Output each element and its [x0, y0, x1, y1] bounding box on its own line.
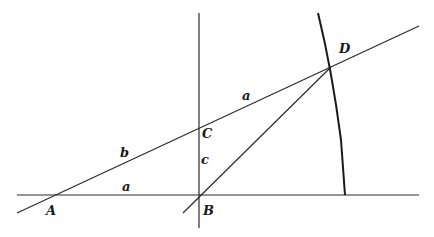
segment-label-ab: a [122, 179, 130, 194]
segment-label-ac: b [120, 145, 129, 160]
geometry-diagram: ABCD abca [0, 0, 434, 237]
segment-label-bc: c [201, 152, 209, 167]
line-AD [17, 26, 419, 213]
point-label-a: A [44, 203, 56, 218]
segment-label-cd: a [242, 88, 250, 103]
construction-lines [17, 13, 419, 228]
point-label-d: D [338, 41, 351, 56]
point-label-c: C [202, 126, 213, 141]
segment-labels: abca [120, 88, 250, 194]
point-label-b: B [202, 203, 214, 218]
